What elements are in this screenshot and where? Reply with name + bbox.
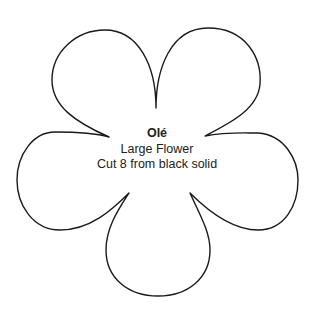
flower-template: Olé Large Flower Cut 8 from black solid — [0, 0, 319, 316]
template-subtitle: Large Flower — [121, 142, 194, 156]
cut-instruction: Cut 8 from black solid — [97, 157, 217, 171]
template-title: Olé — [147, 126, 167, 140]
